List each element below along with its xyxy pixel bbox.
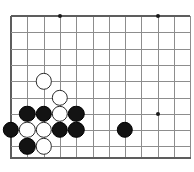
white-stone-c1r7[interactable] (19, 122, 35, 138)
board-top-edge-line (11, 15, 190, 17)
board-vertical-line (190, 16, 191, 157)
board-vertical-line (174, 16, 175, 157)
board-vertical-line (158, 16, 159, 157)
star-point-upper-right (156, 14, 160, 18)
white-stone-c2r7[interactable] (35, 122, 51, 138)
black-stone-c7r7[interactable] (117, 122, 133, 138)
black-stone-c2r6[interactable] (35, 106, 51, 122)
black-stone-c4r6[interactable] (68, 106, 84, 122)
board-vertical-line (109, 16, 110, 157)
board-horizontal-line (11, 98, 190, 99)
white-stone-c2r4[interactable] (35, 73, 51, 89)
black-stone-c4r7[interactable] (68, 122, 84, 138)
white-stone-c3r5[interactable] (52, 89, 68, 105)
star-point-lower-right (156, 112, 160, 116)
board-vertical-line (93, 16, 94, 157)
star-point-upper-left (58, 14, 62, 18)
board-bottom-edge-line (10, 157, 191, 159)
black-stone-c0r7[interactable] (3, 122, 19, 138)
board-horizontal-line (11, 32, 190, 33)
black-stone-c1r8[interactable] (19, 138, 35, 154)
white-stone-c3r6[interactable] (52, 106, 68, 122)
board-vertical-line (141, 16, 142, 157)
white-stone-c2r8[interactable] (35, 138, 51, 154)
board-horizontal-line (11, 49, 190, 50)
go-board-surface[interactable] (0, 0, 194, 172)
go-board-figure (0, 0, 194, 172)
board-horizontal-line (11, 65, 190, 66)
black-stone-c1r6[interactable] (19, 106, 35, 122)
black-stone-c3r7[interactable] (52, 122, 68, 138)
